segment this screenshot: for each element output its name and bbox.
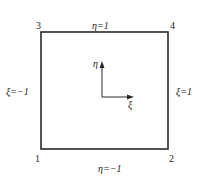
node-3-label: 3 [36,20,41,31]
eta-axis-label: η [93,58,98,69]
left-edge-label: ξ=−1 [6,86,29,98]
top-edge-label: η=1 [92,20,109,31]
eta-arrowhead-icon [100,61,105,68]
right-edge-label: ξ=1 [176,86,192,98]
node-1-label: 1 [35,153,40,164]
node-2-label: 2 [169,153,174,164]
bottom-edge-label: η=−1 [98,163,121,174]
element-boundary [41,32,168,149]
element-diagram: 3 4 1 2 η=1 η=−1 ξ=−1 ξ=1 η ξ [0,0,205,179]
node-4-label: 4 [170,20,175,31]
xi-axis-label: ξ [128,99,133,111]
